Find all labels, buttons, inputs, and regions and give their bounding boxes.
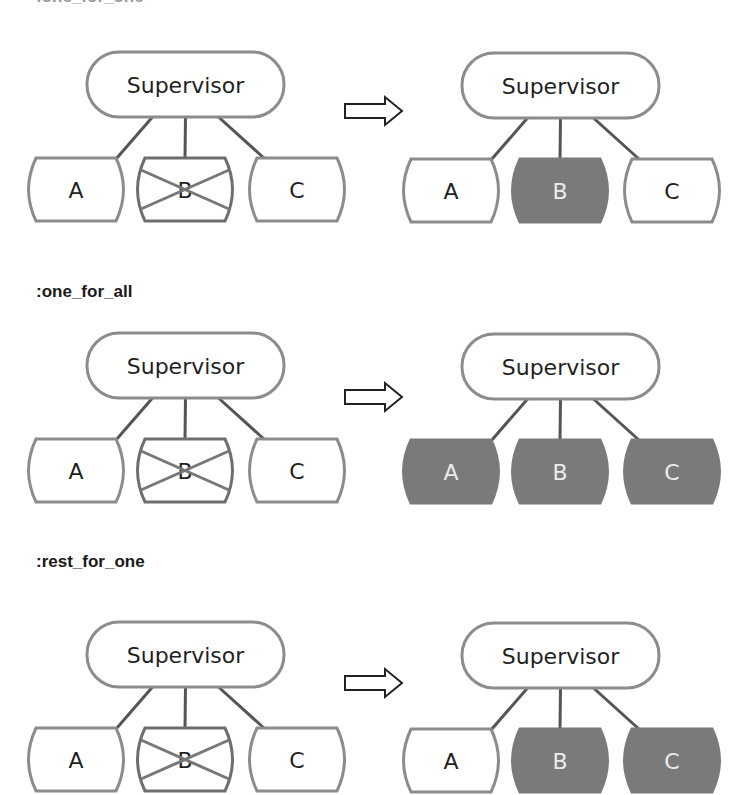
right-arrow-icon bbox=[345, 383, 402, 411]
supervisor-label: Supervisor bbox=[502, 355, 621, 380]
tree-after-row-2: SupervisorABC bbox=[404, 623, 720, 792]
connector-line bbox=[560, 118, 561, 159]
child-label: A bbox=[443, 179, 458, 204]
tree-before-row-2: SupervisorABC bbox=[29, 622, 345, 791]
child-label: A bbox=[68, 459, 83, 484]
connector-line bbox=[560, 399, 561, 440]
tree-before-row-1: SupervisorABC bbox=[29, 333, 345, 502]
connector-line bbox=[594, 399, 641, 441]
tree-after-row-0: SupervisorABC bbox=[404, 53, 720, 222]
connector-line bbox=[219, 398, 266, 440]
connector-line bbox=[594, 688, 641, 730]
connector-line bbox=[219, 117, 266, 159]
child-label: C bbox=[664, 179, 679, 204]
tree-after-row-1: SupervisorABC bbox=[404, 334, 720, 503]
supervisor-label: Supervisor bbox=[127, 73, 246, 98]
child-label: C bbox=[289, 178, 304, 203]
tree-before-row-0: SupervisorABC bbox=[29, 52, 345, 221]
child-label: B bbox=[552, 179, 567, 204]
connector-line bbox=[594, 118, 641, 160]
supervisor-label: Supervisor bbox=[127, 643, 246, 668]
child-label: C bbox=[289, 748, 304, 773]
child-label: A bbox=[68, 178, 83, 203]
connector-line bbox=[116, 398, 153, 440]
child-label: A bbox=[443, 460, 458, 485]
right-arrow-icon bbox=[345, 97, 402, 125]
supervisor-label: Supervisor bbox=[502, 644, 621, 669]
child-label: A bbox=[68, 748, 83, 773]
child-label: B bbox=[552, 749, 567, 774]
child-label: B bbox=[552, 460, 567, 485]
connector-line bbox=[491, 399, 528, 441]
connector-line bbox=[491, 688, 528, 730]
diagram-canvas: SupervisorABCSupervisorABCSupervisorABCS… bbox=[0, 0, 748, 795]
connector-line bbox=[185, 117, 186, 158]
supervision-strategies-diagram: :one_for_one :one_for_all :rest_for_one … bbox=[0, 0, 748, 795]
connector-line bbox=[116, 687, 153, 729]
right-arrow-icon bbox=[345, 669, 402, 697]
child-label: C bbox=[664, 460, 679, 485]
child-label: C bbox=[289, 459, 304, 484]
supervisor-label: Supervisor bbox=[127, 354, 246, 379]
child-label: C bbox=[664, 749, 679, 774]
connector-line bbox=[185, 687, 186, 728]
connector-line bbox=[219, 687, 266, 729]
connector-line bbox=[185, 398, 186, 439]
supervisor-label: Supervisor bbox=[502, 74, 621, 99]
child-label: A bbox=[443, 749, 458, 774]
connector-line bbox=[491, 118, 528, 160]
connector-line bbox=[116, 117, 153, 159]
connector-line bbox=[560, 688, 561, 729]
